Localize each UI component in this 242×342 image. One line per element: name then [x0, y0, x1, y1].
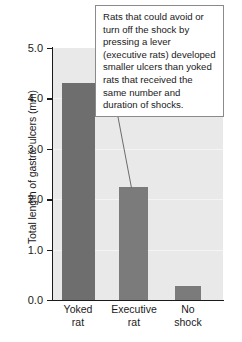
y-tick-label-5: 5.0 [0, 42, 43, 54]
y-tick-label-2: 2.0 [0, 193, 43, 205]
y-tick [47, 250, 53, 251]
y-tick [47, 199, 53, 200]
y-tick [47, 98, 53, 99]
bar-chart-figure: Total length of gastric ulcers (mm) 0.0 … [0, 0, 242, 342]
x-tick-label-executive-rat: Executive rat [111, 303, 157, 328]
bar-yoked-rat [62, 83, 95, 300]
bar-executive-rat [119, 187, 148, 300]
annotation-callout: Rats that could avoid or turn off the sh… [95, 5, 224, 117]
y-tick-label-0: 0.0 [0, 294, 43, 306]
y-tick [47, 149, 53, 150]
y-tick-label-1: 1.0 [0, 244, 43, 256]
bar-no-shock [175, 286, 201, 300]
y-tick [47, 48, 53, 49]
x-axis-line [52, 300, 224, 301]
x-tick-label-no-shock: No shock [174, 303, 201, 328]
y-axis-line [52, 47, 53, 301]
y-tick-label-3: 3.0 [0, 143, 43, 155]
x-tick-label-yoked-rat: Yoked rat [64, 303, 93, 328]
y-tick [47, 300, 53, 301]
y-tick-label-4: 4.0 [0, 92, 43, 104]
